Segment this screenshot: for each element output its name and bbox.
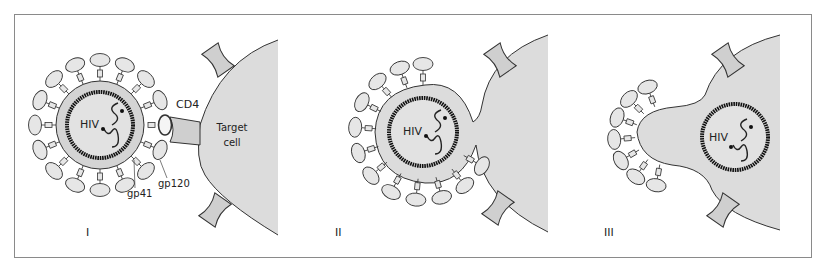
hiv-label: HIV xyxy=(80,118,100,131)
target-cell-label: Target xyxy=(216,122,248,133)
hiv-entry-diagram: HIV CD4 Target cell gp41 gp120 I xyxy=(0,0,827,271)
panel-1: HIV CD4 Target cell gp41 gp120 I xyxy=(29,40,279,239)
hiv-virion-1 xyxy=(29,54,172,197)
panel-label-1: I xyxy=(86,226,89,239)
capsid xyxy=(67,92,133,158)
gp41-label: gp41 xyxy=(127,188,152,199)
panel-label-2: II xyxy=(335,226,342,239)
hiv-label: HIV xyxy=(403,125,423,138)
panel-2: HIV II xyxy=(335,35,548,239)
cd4-label: CD4 xyxy=(176,98,199,111)
panel-3: HIV III xyxy=(604,35,780,239)
panel-label-3: III xyxy=(604,226,614,239)
gp120-label: gp120 xyxy=(158,178,190,189)
target-cell-label-2: cell xyxy=(223,137,240,148)
capsid xyxy=(389,98,457,166)
cd4-receptor xyxy=(170,117,200,145)
hiv-label: HIV xyxy=(709,131,729,144)
